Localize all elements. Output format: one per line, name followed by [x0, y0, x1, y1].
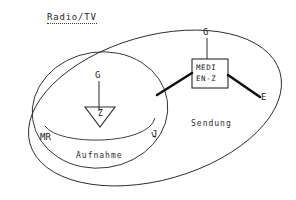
region-label-sendung: Sendung — [191, 120, 232, 128]
label-j-endpoint: J — [152, 130, 158, 139]
label-z-zentrale: Z — [98, 110, 103, 118]
region-label-aufnahme: Aufnahme — [76, 152, 123, 160]
venn-diagram-figure — [0, 0, 296, 200]
medienzentrale-label-line1: MEDI — [196, 64, 216, 72]
aufnahme-inner-arc — [45, 118, 156, 140]
medienzentrale-label-line2: EN-Z — [196, 75, 216, 83]
connector-medienzentrale-to-e — [228, 75, 260, 97]
diagram-canvas: Radio/TV G G E MR J Z Aufnahme Sendung M… — [0, 0, 296, 200]
label-mr-endpoint: MR — [40, 133, 51, 142]
label-g-zentrale: G — [95, 71, 101, 80]
label-e-endpoint: E — [261, 93, 267, 102]
outer-ellipse-radio-tv — [10, 3, 296, 200]
page-title: Radio/TV — [47, 13, 97, 24]
label-g-top: G — [203, 28, 209, 37]
